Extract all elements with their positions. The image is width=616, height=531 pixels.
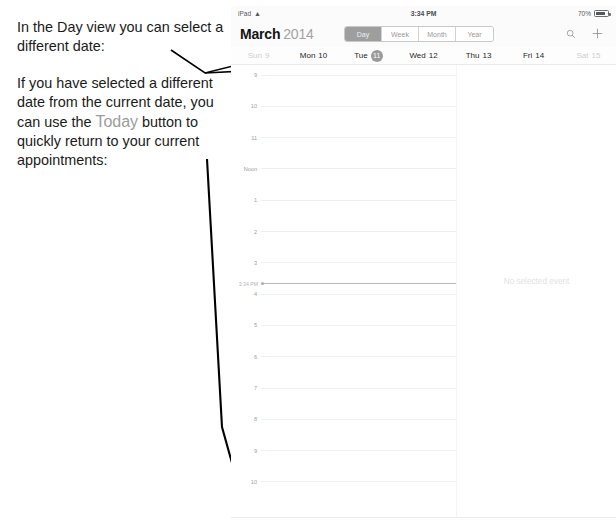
day-cell-sat[interactable]: Sat15 [561, 51, 616, 60]
day-cell-fri[interactable]: Fri14 [506, 51, 561, 60]
current-time-line [264, 283, 456, 284]
search-icon[interactable] [566, 25, 576, 43]
day-cell-wed[interactable]: Wed12 [396, 51, 451, 60]
hour-gridline [261, 419, 456, 420]
status-bar: iPad ▲ 3:34 PM 70% [231, 6, 616, 21]
hour-gridline [261, 106, 456, 107]
day-strip[interactable]: Sun9Mon10Tue11Wed12Thu13Fri14Sat15 [231, 47, 616, 65]
calendar-body: 91011Noon123456789103:34 PM No selected … [231, 65, 616, 517]
hour-gridline [261, 481, 456, 482]
hour-label: 6 [231, 353, 261, 359]
hour-label: 10 [231, 103, 261, 109]
tab-year[interactable]: Year [456, 27, 493, 41]
status-bar-right: 70% [578, 10, 609, 17]
page-title: March2014 [240, 26, 314, 42]
hour-gridline [261, 356, 456, 357]
day-weekday-label: Sat [577, 51, 589, 60]
status-bar-clock: 3:34 PM [231, 10, 616, 17]
hour-label: 4 [231, 291, 261, 297]
day-weekday-label: Thu [466, 51, 480, 60]
bottom-toolbar: Today Calendars Inbox [231, 517, 616, 520]
hour-gridline [261, 262, 456, 263]
nav-bar-actions [566, 25, 607, 43]
hour-gridline [261, 75, 456, 76]
day-cell-mon[interactable]: Mon10 [286, 51, 341, 60]
day-number-badge: 11 [371, 50, 383, 62]
hour-gridline [261, 325, 456, 326]
hour-label: Noon [231, 165, 261, 171]
hour-label: 2 [231, 228, 261, 234]
hour-gridline [261, 231, 456, 232]
current-time-indicator: 3:34 PM [231, 281, 456, 287]
hour-label: 3 [231, 259, 261, 265]
battery-fill [596, 12, 605, 15]
day-number-label: 15 [592, 51, 601, 60]
tab-month[interactable]: Month [419, 27, 456, 41]
hour-label: 7 [231, 385, 261, 391]
current-time-label: 3:34 PM [231, 281, 261, 287]
screenshot-root: In the Day view you can select a differe… [0, 0, 616, 531]
day-weekday-label: Tue [354, 51, 368, 60]
hour-label: 1 [231, 197, 261, 203]
view-segmented-control[interactable]: Day Week Month Year [344, 26, 494, 42]
day-cell-sun[interactable]: Sun9 [231, 51, 286, 60]
day-number-label: 9 [265, 51, 269, 60]
annotation-today-button: If you have selected a different date fr… [17, 74, 239, 170]
tab-week[interactable]: Week [382, 27, 419, 41]
hour-label: 8 [231, 416, 261, 422]
day-weekday-label: Fri [523, 51, 532, 60]
no-selected-event-label: No selected event [504, 277, 570, 286]
month-label: March [240, 26, 280, 42]
hour-gridline [261, 200, 456, 201]
day-number-label: 12 [429, 51, 438, 60]
hour-label: 10 [231, 478, 261, 484]
hour-label: 9 [231, 72, 261, 78]
hour-gridline [261, 388, 456, 389]
day-timeline[interactable]: 91011Noon123456789103:34 PM [231, 65, 456, 517]
day-cell-thu[interactable]: Thu13 [451, 51, 506, 60]
day-number-label: 14 [535, 51, 544, 60]
day-weekday-label: Mon [300, 51, 316, 60]
hour-label: 9 [231, 447, 261, 453]
hour-gridline [261, 137, 456, 138]
day-number-label: 13 [482, 51, 491, 60]
day-number-label: 10 [318, 51, 327, 60]
annotation-day-view-text: In the Day view you can select a differe… [17, 19, 223, 54]
ipad-calendar-screenshot: iPad ▲ 3:34 PM 70% March2014 Day Week Mo… [231, 6, 616, 520]
day-cell-tue[interactable]: Tue11 [341, 50, 396, 62]
annotation-today-keyword: Today [95, 113, 138, 130]
hour-label: 5 [231, 322, 261, 328]
battery-percent-label: 70% [578, 10, 591, 17]
hour-gridline [261, 294, 456, 295]
tab-day[interactable]: Day [345, 27, 382, 41]
battery-icon [594, 10, 609, 17]
hour-gridline [261, 168, 456, 169]
plus-icon[interactable] [592, 25, 603, 43]
nav-bar: March2014 Day Week Month Year [231, 21, 616, 47]
hour-gridline [261, 450, 456, 451]
day-weekday-label: Sun [248, 51, 262, 60]
year-label: 2014 [283, 26, 313, 42]
annotation-day-view: In the Day view you can select a differe… [17, 18, 237, 56]
event-detail-pane: No selected event [456, 65, 616, 517]
day-weekday-label: Wed [409, 51, 425, 60]
hour-label: 11 [231, 134, 261, 140]
